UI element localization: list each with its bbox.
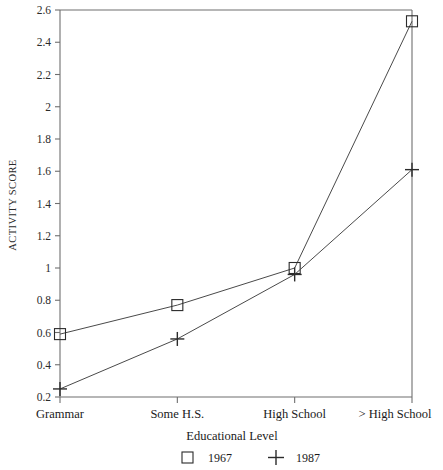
x-axis-title: Educational Level [186,429,278,443]
legend-label-1967: 1967 [208,451,232,465]
x-tick-label: > High School [358,407,432,421]
legend: 1967 1987 [182,450,320,465]
y-tick-label: 1.2 [37,230,52,242]
y-tick-label: 1.6 [37,165,52,177]
y-tick-label: 2 [45,101,51,113]
y-tick-label: 1 [45,262,51,274]
y-tick-label: 2.6 [37,4,52,16]
y-tick-label: 1.4 [37,198,52,210]
y-tick-label: 0.2 [37,391,52,403]
x-tick-label: Some H.S. [150,407,204,421]
series-1967 [55,16,418,340]
y-tick-label: 0.8 [37,294,52,306]
chart-canvas: 0.20.40.60.811.21.41.61.822.22.42.6 Gram… [0,0,443,470]
y-tick-label: 2.4 [37,36,52,48]
y-tick-label: 1.8 [37,133,52,145]
series-1987 [53,163,419,396]
y-tick-label: 0.4 [37,359,52,371]
y-tick-label: 0.6 [37,327,52,339]
y-tick-label: 2.2 [37,69,52,81]
x-tick-label: Grammar [36,407,85,421]
plot-frame [60,10,412,397]
series-line-1987 [60,170,412,389]
y-axis-ticks: 0.20.40.60.811.21.41.61.822.22.42.6 [37,4,60,403]
y-axis-label: ACTIVITY SCORE [7,159,18,250]
x-tick-label: High School [263,407,326,421]
activity-score-line-chart: 0.20.40.60.811.21.41.61.822.22.42.6 Gram… [0,0,443,470]
legend-label-1987: 1987 [296,451,320,465]
plus-marker-icon [53,382,67,396]
x-axis-ticks: GrammarSome H.S.High School> High School [36,397,432,421]
square-marker-icon [182,452,193,463]
series-line-1967 [60,21,412,334]
plus-marker-icon [268,450,284,465]
plus-marker-icon [170,332,184,346]
series-layer [53,16,419,396]
